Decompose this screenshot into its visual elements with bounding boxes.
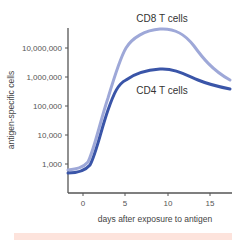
y-tick-label: 10,000,000 (22, 44, 63, 53)
footer-band (14, 233, 232, 240)
cd4-label: CD4 T cells (136, 85, 187, 96)
y-tick-label: 10,000 (38, 131, 63, 140)
x-ticks: 0 5 10 15 (81, 193, 215, 208)
x-tick-label: 10 (164, 199, 173, 208)
y-tick-label: 1,000,000 (26, 73, 62, 82)
chart-canvas: 10,000,000 1,000,000 100,000 10,000 1,00… (0, 0, 245, 240)
x-tick-label: 15 (206, 199, 215, 208)
y-tick-label: 1,000 (42, 160, 63, 169)
cd8-line (68, 29, 230, 170)
x-tick-label: 0 (81, 199, 86, 208)
y-axis-title: antigen-specific cells (6, 71, 16, 149)
x-axis-title: days after exposure to antigen (98, 214, 213, 224)
x-tick-label: 5 (123, 199, 128, 208)
y-tick-label: 100,000 (33, 102, 62, 111)
y-ticks: 10,000,000 1,000,000 100,000 10,000 1,00… (22, 44, 68, 169)
cd8-label: CD8 T cells (136, 13, 187, 24)
